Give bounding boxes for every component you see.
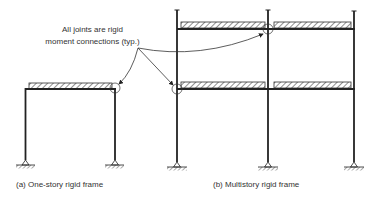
lower-slab-left bbox=[181, 82, 265, 88]
roof-slab bbox=[29, 83, 112, 89]
annotation-line-2: moment connections (typ.) bbox=[30, 36, 155, 48]
annotation-line-1: All joints are rigid bbox=[30, 24, 155, 36]
pin-support-icon bbox=[344, 162, 364, 171]
upper-slab-right bbox=[274, 22, 351, 28]
pin-support-icon bbox=[167, 162, 187, 171]
caption-a: (a) One-story rigid frame bbox=[16, 180, 103, 189]
joint-annotation: All joints are rigid moment connections … bbox=[30, 24, 155, 48]
caption-b: (b) Multistory rigid frame bbox=[213, 180, 299, 189]
multistory-frame bbox=[167, 10, 364, 171]
lower-slab-right bbox=[274, 82, 351, 88]
pin-support-icon bbox=[258, 162, 278, 171]
pin-support-icon bbox=[105, 160, 124, 169]
upper-slab-left bbox=[181, 22, 265, 28]
one-story-frame bbox=[16, 83, 124, 169]
pin-support-icon bbox=[16, 160, 35, 169]
